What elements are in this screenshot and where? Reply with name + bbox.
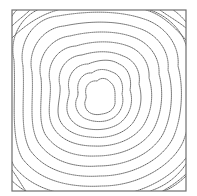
contour-diagram	[0, 0, 197, 196]
